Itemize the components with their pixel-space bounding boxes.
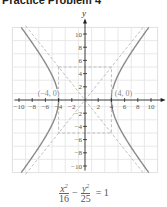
eq-operator: − [72,187,78,198]
x-tick-label: 8 [136,103,140,111]
equation: x2 16 − y2 25 = 1 [56,182,109,203]
x-tick-label: 2 [96,103,100,111]
y-tick-label: 2 [79,83,83,91]
y-tick-label: 8 [79,44,83,52]
y-tick-label: 6 [79,57,83,65]
y-axis-arrow-icon [83,18,87,23]
fraction-y: y2 25 [80,182,92,203]
x-tick-label: 10 [148,103,156,111]
hyperbola-chart: xy−10−8−6−4−2246810108642−2−4−6−8−10(−4,… [0,0,167,207]
x-tick-label: −8 [28,103,36,111]
x-tick-label: −6 [42,103,50,111]
eq-rhs: = 1 [96,187,109,198]
y-tick-label: −10 [71,163,82,171]
x-tick-label: −4 [55,103,63,111]
vertex-label: (4, 0) [115,89,133,98]
vertex-label: (−4, 0) [38,89,60,98]
y-axis-label: y [81,8,86,18]
y-tick-label: −4 [75,123,83,131]
y-tick-label: −8 [75,149,83,157]
y-tick-label: 4 [79,70,83,78]
eq-den1: 16 [58,194,70,203]
eq-exp1: 2 [65,183,68,189]
y-tick-label: −2 [75,110,83,118]
x-tick-label: −10 [14,103,25,111]
y-tick-label: −6 [75,136,83,144]
eq-exp2: 2 [86,183,89,189]
x-tick-label: 6 [123,103,127,111]
x-axis-arrow-icon [161,98,166,102]
eq-den2: 25 [80,194,92,203]
fraction-x: x2 16 [58,182,70,203]
y-tick-label: 10 [75,31,83,39]
x-tick-label: 4 [110,103,114,111]
